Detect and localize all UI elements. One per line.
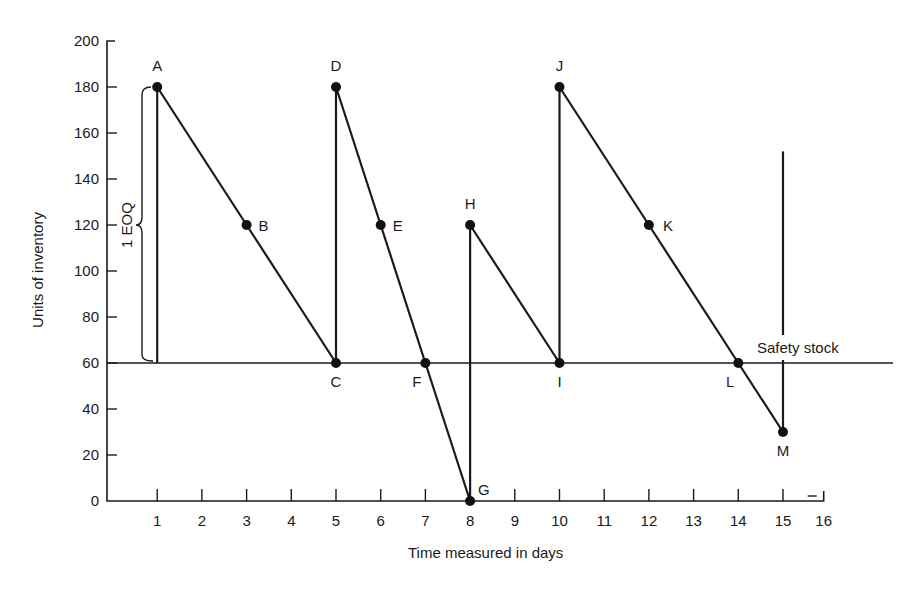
point-e-marker bbox=[376, 220, 386, 230]
point-i-label: I bbox=[557, 373, 561, 390]
point-c-marker bbox=[331, 358, 341, 368]
y-tick-label: 60 bbox=[82, 354, 99, 371]
point-g-marker bbox=[465, 496, 475, 506]
safety-stock-label: Safety stock bbox=[757, 339, 839, 356]
y-axis-ticks: 020406080100120140160180200 bbox=[74, 32, 117, 509]
point-m-label: M bbox=[777, 442, 790, 459]
point-j-label: J bbox=[556, 57, 564, 74]
series-segment bbox=[157, 87, 246, 225]
point-f-marker bbox=[420, 358, 430, 368]
x-tick-label: 5 bbox=[332, 512, 340, 529]
point-i-marker bbox=[555, 358, 565, 368]
point-h-marker bbox=[465, 220, 475, 230]
point-d-marker bbox=[331, 82, 341, 92]
point-f-label: F bbox=[412, 373, 421, 390]
point-b-marker bbox=[242, 220, 252, 230]
point-c-label: C bbox=[331, 373, 342, 390]
y-tick-label: 0 bbox=[91, 492, 99, 509]
y-tick-label: 140 bbox=[74, 170, 99, 187]
x-tick-label: 9 bbox=[511, 512, 519, 529]
point-l-marker bbox=[733, 358, 743, 368]
x-tick-label: 2 bbox=[198, 512, 206, 529]
x-tick-label: 11 bbox=[596, 512, 612, 529]
point-h-label: H bbox=[465, 195, 476, 212]
axis-frame bbox=[107, 41, 824, 501]
x-tick-label: 1 bbox=[153, 512, 161, 529]
x-tick-label: 3 bbox=[242, 512, 250, 529]
x-tick-label: 16 bbox=[815, 512, 832, 529]
point-d-label: D bbox=[331, 57, 342, 74]
point-k-marker bbox=[644, 220, 654, 230]
x-tick-label: 7 bbox=[421, 512, 429, 529]
eoq-label: 1 EOQ bbox=[118, 202, 135, 248]
point-a-label: A bbox=[152, 57, 162, 74]
point-g-label: G bbox=[478, 481, 490, 498]
x-tick-label: 4 bbox=[287, 512, 295, 529]
point-k-label: K bbox=[663, 217, 673, 234]
axes bbox=[107, 41, 824, 501]
x-tick-label: 15 bbox=[775, 512, 792, 529]
y-tick-label: 100 bbox=[74, 262, 99, 279]
point-m-marker bbox=[778, 427, 788, 437]
y-tick-label: 200 bbox=[74, 32, 99, 49]
y-tick-label: 20 bbox=[82, 446, 99, 463]
series-segment bbox=[381, 225, 426, 363]
series-segment bbox=[247, 225, 336, 363]
series-segment bbox=[336, 87, 381, 225]
y-axis-title: Units of inventory bbox=[29, 212, 46, 328]
x-tick-label: 14 bbox=[730, 512, 747, 529]
y-tick-label: 80 bbox=[82, 308, 99, 325]
y-tick-label: 160 bbox=[74, 124, 99, 141]
safety-stock-line: Safety stock bbox=[107, 339, 893, 363]
inventory-series bbox=[157, 87, 783, 501]
y-tick-label: 120 bbox=[74, 216, 99, 233]
series-segment bbox=[738, 363, 783, 432]
x-tick-label: 12 bbox=[641, 512, 658, 529]
series-segment bbox=[649, 225, 738, 363]
point-j-marker bbox=[555, 82, 565, 92]
point-b-label: B bbox=[259, 217, 269, 234]
inventory-chart: 020406080100120140160180200 123456789101… bbox=[0, 0, 913, 589]
x-tick-label: 6 bbox=[377, 512, 385, 529]
y-tick-label: 40 bbox=[82, 400, 99, 417]
x-tick-label: 8 bbox=[466, 512, 474, 529]
eoq-brace-shape bbox=[136, 87, 153, 361]
series-segment bbox=[560, 87, 649, 225]
y-tick-label: 180 bbox=[74, 78, 99, 95]
x-axis-ticks: 12345678910111213141516 bbox=[153, 489, 832, 529]
series-segment bbox=[470, 225, 559, 363]
point-a-marker bbox=[152, 82, 162, 92]
point-e-label: E bbox=[393, 217, 403, 234]
eoq-brace: 1 EOQ bbox=[118, 87, 153, 361]
x-tick-label: 13 bbox=[685, 512, 702, 529]
series-segment bbox=[425, 363, 470, 501]
point-l-label: L bbox=[726, 373, 734, 390]
x-axis-title: Time measured in days bbox=[408, 544, 563, 561]
x-tick-label: 10 bbox=[551, 512, 568, 529]
